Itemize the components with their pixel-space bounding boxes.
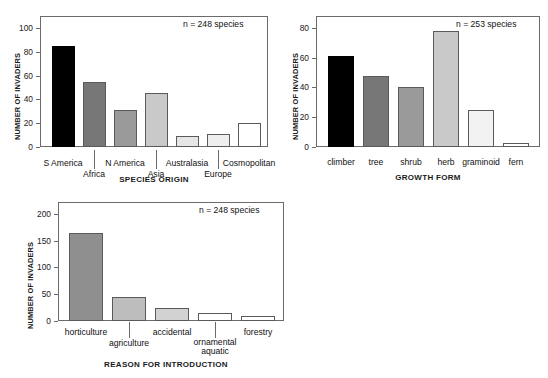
y-axis-tick-label: 40 — [300, 82, 309, 92]
sample-size-annotation: n = 248 species — [199, 205, 259, 215]
x-axis-label: forestry — [244, 327, 273, 337]
bar — [155, 308, 189, 321]
x-axis-label: horticulture — [65, 327, 108, 337]
y-axis-tick-mark — [54, 241, 58, 242]
y-axis-tick-label: 20 — [24, 118, 33, 128]
bar — [503, 143, 529, 147]
y-axis-tick-label: 100 — [37, 262, 51, 272]
y-axis-tick-label: 80 — [300, 23, 309, 33]
y-axis-tick-label: 0 — [28, 142, 33, 152]
y-axis-title: NUMBER OF INVADERS — [26, 242, 35, 329]
bar — [112, 297, 146, 321]
x-axis-label: S America — [43, 158, 82, 168]
x-axis-title: GROWTH FORM — [395, 173, 461, 182]
chart-panel-species-origin: NUMBER OF INVADERS n = 248 species 02040… — [0, 0, 278, 190]
y-axis-title: NUMBER OF INVADERS — [13, 53, 22, 140]
y-axis-tick-label: 0 — [46, 316, 51, 326]
x-axis-label: Cosmopolitan — [223, 158, 276, 168]
bar — [176, 136, 199, 147]
y-axis-tick-mark — [312, 28, 316, 29]
y-axis-tick-label: 100 — [19, 23, 33, 33]
bar — [238, 123, 261, 147]
y-axis-tick-label: 0 — [304, 142, 309, 152]
x-axis-label: Africa — [83, 169, 105, 179]
bar — [52, 46, 75, 147]
bar — [207, 134, 230, 147]
x-axis-label: Australasia — [166, 158, 209, 168]
y-axis-tick-label: 80 — [24, 47, 33, 57]
x-axis-label: shrub — [400, 157, 422, 167]
bar — [241, 316, 275, 321]
y-axis-tick-mark — [312, 147, 316, 148]
x-axis-label: Europe — [204, 169, 232, 179]
x-axis-label: climber — [327, 157, 355, 167]
x-axis-label: accidental — [153, 327, 192, 337]
y-axis-tick-label: 150 — [37, 236, 51, 246]
y-axis-tick-label: 200 — [37, 209, 51, 219]
x-axis-title: REASON FOR INTRODUCTION — [104, 360, 228, 369]
y-axis-tick-mark — [36, 99, 40, 100]
y-axis-tick-mark — [312, 58, 316, 59]
x-axis-leader-line — [129, 322, 130, 338]
y-axis-tick-label: 20 — [300, 112, 309, 122]
y-axis-tick-label: 40 — [24, 94, 33, 104]
bar — [69, 233, 103, 321]
y-axis-tick-label: 60 — [300, 53, 309, 63]
chart-panel-reason-for-introduction: NUMBER OF INVADERS n = 248 species 05010… — [14, 188, 304, 378]
x-axis-label: ornamentalaquatic — [194, 338, 237, 356]
bar — [198, 313, 232, 321]
bar — [83, 82, 106, 148]
chart-panel-growth-form: NUMBER OF INVADERS n = 253 species 02040… — [278, 0, 548, 190]
bar — [145, 93, 168, 147]
x-axis-label: graminoid — [462, 157, 500, 167]
y-axis-tick-mark — [36, 52, 40, 53]
y-axis-tick-mark — [312, 117, 316, 118]
x-axis-title: SPECIES ORIGIN — [119, 175, 189, 184]
x-axis-leader-line — [218, 150, 219, 169]
y-axis-tick-mark — [54, 214, 58, 215]
bar — [328, 56, 354, 147]
y-axis-tick-label: 60 — [24, 71, 33, 81]
sample-size-annotation: n = 253 species — [456, 19, 516, 29]
x-axis-leader-line — [94, 150, 95, 169]
x-axis-label: N America — [105, 158, 145, 168]
x-axis-leader-line — [215, 322, 216, 338]
bar — [433, 31, 459, 147]
y-axis-tick-mark — [36, 28, 40, 29]
bar — [363, 76, 389, 147]
x-axis-leader-line — [156, 150, 157, 169]
x-axis-label: fern — [509, 157, 524, 167]
y-axis-tick-mark — [54, 321, 58, 322]
y-axis-title: NUMBER OF INVADERS — [291, 53, 300, 140]
y-axis-tick-mark — [54, 294, 58, 295]
sample-size-annotation: n = 248 species — [183, 19, 243, 29]
bar — [398, 87, 424, 147]
y-axis-tick-label: 50 — [42, 289, 51, 299]
y-axis-tick-mark — [54, 267, 58, 268]
y-axis-tick-mark — [36, 123, 40, 124]
bar — [114, 110, 137, 147]
y-axis-tick-mark — [36, 76, 40, 77]
x-axis-label: agriculture — [109, 338, 149, 348]
y-axis-tick-mark — [312, 87, 316, 88]
x-axis-label: herb — [437, 157, 454, 167]
x-axis-label: tree — [369, 157, 384, 167]
y-axis-tick-mark — [36, 147, 40, 148]
bar — [468, 110, 494, 147]
